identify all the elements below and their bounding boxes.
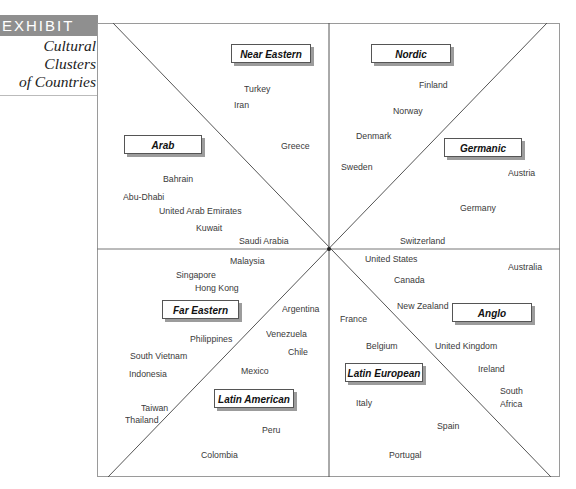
country-uae: United Arab Emirates	[159, 205, 242, 216]
country-united-states: United States	[365, 253, 417, 264]
country-thailand: Thailand	[125, 414, 159, 425]
country-finland: Finland	[419, 79, 448, 90]
country-france: France	[340, 313, 367, 324]
country-peru: Peru	[262, 424, 280, 435]
country-austria: Austria	[508, 167, 535, 178]
country-germany: Germany	[460, 202, 496, 213]
country-kuwait: Kuwait	[196, 222, 222, 233]
cluster-label-latin-european: Latin European	[345, 363, 423, 382]
country-taiwan: Taiwan	[141, 402, 168, 413]
cluster-label-nordic: Nordic	[371, 44, 451, 63]
country-denmark: Denmark	[356, 130, 391, 141]
country-malaysia: Malaysia	[230, 255, 265, 266]
cluster-label-far-eastern: Far Eastern	[162, 300, 239, 319]
country-mexico: Mexico	[241, 365, 269, 376]
country-abu-dhabi: Abu-Dhabi	[123, 191, 164, 202]
country-south-africa-line1: South	[500, 385, 523, 396]
country-argentina: Argentina	[282, 303, 319, 314]
country-ireland: Ireland	[478, 363, 505, 374]
country-greece: Greece	[281, 140, 310, 151]
country-portugal: Portugal	[389, 449, 422, 460]
country-switzerland: Switzerland	[400, 235, 445, 246]
country-south-vietnam: South Vietnam	[130, 350, 187, 361]
country-venezuela: Venezuela	[266, 328, 307, 339]
country-singapore: Singapore	[176, 269, 216, 280]
cluster-label-latin-american: Latin American	[214, 389, 294, 408]
country-bahrain: Bahrain	[163, 173, 193, 184]
country-iran: Iran	[234, 99, 249, 110]
country-colombia: Colombia	[201, 449, 238, 460]
cluster-label-anglo: Anglo	[452, 303, 532, 322]
cluster-label-germanic: Germanic	[444, 138, 522, 157]
country-australia: Australia	[508, 261, 542, 272]
country-hong-kong: Hong Kong	[195, 282, 239, 293]
country-turkey: Turkey	[244, 83, 270, 94]
country-sweden: Sweden	[341, 161, 373, 172]
country-spain: Spain	[437, 420, 459, 431]
country-saudi-arabia: Saudi Arabia	[239, 235, 289, 246]
country-new-zealand: New Zealand	[397, 300, 449, 311]
cluster-label-near-eastern: Near Eastern	[231, 44, 311, 63]
country-canada: Canada	[394, 274, 425, 285]
cluster-label-arab: Arab	[124, 135, 202, 154]
country-philippines: Philippines	[190, 333, 232, 344]
country-belgium: Belgium	[366, 340, 398, 351]
country-chile: Chile	[288, 346, 308, 357]
country-norway: Norway	[393, 105, 423, 116]
country-united-kingdom: United Kingdom	[435, 340, 497, 351]
country-south-africa-line2: Africa	[500, 398, 522, 409]
country-italy: Italy	[356, 397, 372, 408]
country-indonesia: Indonesia	[129, 368, 167, 379]
